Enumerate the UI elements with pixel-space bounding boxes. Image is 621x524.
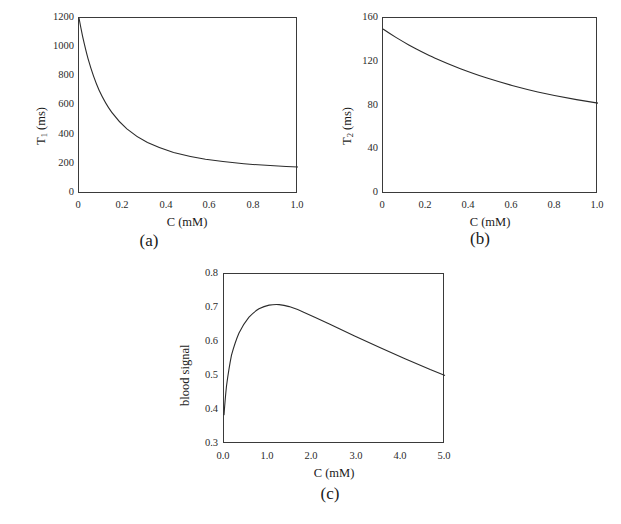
panel-c-ytick-0.6: 0.6 [188,336,218,347]
figure-canvas: T1 (ms) 0 200 400 600 800 1000 1200 0 0.… [0,0,621,524]
panel-a-ytick-600: 600 [44,99,74,110]
panel-c-ytick-0.5: 0.5 [188,370,218,381]
panel-b-ytick-80: 80 [348,100,378,111]
panel-b-ytick-160: 160 [348,12,378,23]
panel-a-xtick-0.8: 0.8 [246,200,259,211]
panel-c-caption: (c) [321,484,340,504]
panel-b-ytick-0: 0 [348,187,378,198]
panel-c-ytick-0.4: 0.4 [188,404,218,415]
panel-a-ytick-1000: 1000 [44,41,74,52]
panel-a-ytick-400: 400 [44,129,74,140]
panel-c-ytick-0.8: 0.8 [188,268,218,279]
panel-c-xtick-4.0: 4.0 [393,451,406,462]
panel-b-t2-curve [383,29,598,103]
panel-c-xtick-0.0: 0.0 [216,451,229,462]
panel-c-plot-area [223,273,444,443]
panel-a-xtick-0.6: 0.6 [202,200,215,211]
panel-b-xtick-0.8: 0.8 [547,200,560,211]
panel-b-plot-area [382,17,597,193]
panel-b-caption: (b) [470,229,490,249]
panel-c-xtick-1.0: 1.0 [260,451,273,462]
panel-c-xtick-2.0: 2.0 [304,451,317,462]
panel-c-xtick-5.0: 5.0 [437,451,450,462]
panel-a-xtick-1.0: 1.0 [290,200,303,211]
panel-a-ytick-200: 200 [44,158,74,169]
panel-b-xlabel: C (mM) [470,215,511,230]
panel-a-ytick-1200: 1200 [44,12,74,23]
panel-b-ylabel: T2 (ms) [340,107,355,145]
panel-a-curve-svg [79,18,298,194]
panel-b-xtick-0.6: 0.6 [504,200,517,211]
panel-b-curve-svg [383,18,598,194]
panel-c-curve-svg [224,274,445,444]
panel-c-xlabel: C (mM) [314,466,355,481]
panel-a: T1 (ms) 0 200 400 600 800 1000 1200 0 0.… [0,0,320,260]
panel-b-xtick-0: 0 [379,200,384,211]
panel-a-t1-curve [79,18,298,167]
panel-b-xtick-0.2: 0.2 [418,200,431,211]
panel-b-ylabel-tail: (ms) [340,107,354,133]
panel-b-ylabel-sub: 2 [345,133,355,137]
panel-a-ylabel: T1 (ms) [34,107,49,145]
panel-a-ytick-800: 800 [44,70,74,81]
panel-c-xtick-3.0: 3.0 [349,451,362,462]
panel-b-ytick-120: 120 [348,56,378,67]
panel-b-xtick-1.0: 1.0 [590,200,603,211]
panel-a-xtick-0.4: 0.4 [159,200,172,211]
panel-a-xtick-0.2: 0.2 [115,200,128,211]
panel-a-caption: (a) [140,231,159,251]
panel-c: blood signal 0.3 0.4 0.5 0.6 0.7 0.8 0.0… [150,262,510,524]
panel-c-blood-signal-curve [224,305,445,416]
panel-b: T2 (ms) 0 40 80 120 160 0 0.2 0.4 0.6 0.… [310,0,621,260]
panel-a-xtick-0: 0 [75,200,80,211]
panel-a-ytick-0: 0 [44,187,74,198]
panel-b-xtick-0.4: 0.4 [461,200,474,211]
panel-a-xlabel: C (mM) [167,215,208,230]
panel-b-ytick-40: 40 [348,143,378,154]
panel-c-ytick-0.7: 0.7 [188,302,218,313]
panel-a-plot-area [78,17,297,193]
panel-c-ytick-0.3: 0.3 [188,438,218,449]
